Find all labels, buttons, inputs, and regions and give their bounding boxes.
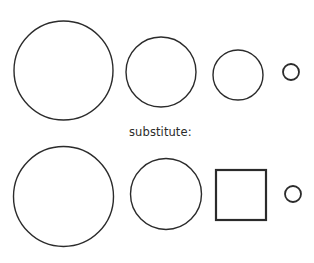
bottom-row-group: [14, 147, 302, 247]
bottom-circle-1: [14, 147, 114, 247]
top-circle-4: [283, 64, 299, 80]
bottom-square-3: [216, 170, 266, 220]
diagram-canvas: substitute:: [0, 0, 314, 263]
shapes-svg: substitute:: [0, 0, 314, 263]
top-circle-1: [14, 21, 113, 120]
bottom-circle-4: [285, 186, 301, 202]
top-row-group: [14, 21, 299, 120]
top-circle-3: [213, 50, 263, 100]
substitute-label: substitute:: [129, 125, 192, 139]
bottom-circle-2: [131, 159, 202, 230]
top-circle-2: [126, 37, 196, 107]
